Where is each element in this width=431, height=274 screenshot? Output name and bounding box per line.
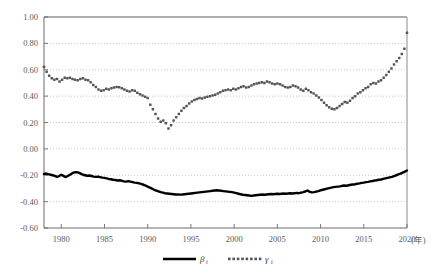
- data-point-gamma: [53, 78, 56, 81]
- data-point-gamma: [388, 70, 391, 73]
- data-point-gamma: [92, 84, 95, 87]
- data-point-gamma: [58, 80, 61, 83]
- data-point-gamma: [97, 88, 100, 91]
- data-point-gamma: [294, 85, 297, 88]
- data-point-gamma: [307, 89, 310, 92]
- data-point-gamma: [255, 82, 257, 85]
- data-point-gamma: [198, 97, 201, 100]
- data-point-gamma: [157, 117, 160, 120]
- data-point-gamma: [74, 78, 77, 81]
- data-point-gamma: [268, 81, 271, 84]
- data-point-gamma: [66, 77, 69, 80]
- x-tick-label: 2010: [312, 234, 329, 244]
- data-point-gamma: [43, 66, 46, 69]
- data-point-gamma: [284, 86, 287, 89]
- data-point-gamma: [76, 79, 79, 82]
- data-point-gamma: [63, 76, 66, 79]
- data-point-gamma: [204, 96, 207, 99]
- legend-dot: [250, 258, 253, 261]
- data-point-gamma: [406, 32, 409, 35]
- data-point-gamma: [146, 97, 149, 100]
- data-point-gamma: [380, 79, 383, 82]
- chart-legend: β t γ t: [163, 254, 273, 265]
- y-tick-label: -0.20: [20, 170, 38, 180]
- data-point-gamma: [250, 84, 253, 87]
- data-point-gamma: [258, 82, 261, 85]
- data-point-gamma: [48, 74, 51, 77]
- data-point-gamma: [134, 90, 137, 93]
- data-point-gamma: [136, 92, 139, 95]
- data-point-gamma: [253, 83, 256, 86]
- data-point-gamma: [302, 90, 305, 93]
- data-point-gamma: [393, 63, 396, 65]
- data-point-gamma: [271, 82, 274, 85]
- data-point-gamma: [344, 101, 347, 104]
- data-point-gamma: [240, 86, 243, 89]
- data-point-gamma: [369, 83, 372, 86]
- data-point-gamma: [165, 122, 168, 125]
- data-point-gamma: [377, 80, 380, 83]
- legend-dot: [254, 258, 257, 261]
- legend-dot: [259, 258, 262, 261]
- y-tick-label: 0.80: [23, 38, 38, 48]
- data-point-gamma: [395, 60, 398, 63]
- data-point-gamma: [245, 86, 248, 89]
- data-point-gamma: [175, 116, 178, 119]
- data-point-gamma: [105, 88, 108, 91]
- data-point-gamma: [367, 86, 370, 89]
- data-point-gamma: [372, 82, 375, 85]
- data-point-gamma: [209, 95, 212, 98]
- data-point-gamma: [121, 87, 124, 90]
- data-point-gamma: [216, 92, 219, 95]
- y-tick-label: -0.60: [20, 223, 38, 233]
- data-point-gamma: [201, 97, 204, 100]
- data-point-gamma: [289, 86, 292, 89]
- data-point-gamma: [144, 96, 147, 99]
- data-point-gamma: [279, 83, 282, 86]
- data-point-gamma: [341, 103, 344, 106]
- data-point-gamma: [170, 124, 173, 127]
- data-point-gamma: [51, 77, 54, 80]
- data-point-gamma: [242, 85, 245, 88]
- data-point-gamma: [95, 86, 98, 89]
- data-point-gamma: [320, 99, 323, 102]
- legend-sub-gamma: t: [271, 259, 273, 265]
- legend-dot: [232, 258, 235, 261]
- y-tick-label: 0.20: [23, 118, 38, 128]
- data-point-gamma: [362, 89, 365, 92]
- data-point-gamma: [385, 74, 388, 77]
- data-point-gamma: [71, 78, 74, 81]
- data-point-gamma: [346, 101, 349, 104]
- data-point-gamma: [401, 53, 404, 56]
- x-tick-label: 1995: [182, 234, 199, 244]
- data-point-gamma: [152, 108, 155, 111]
- data-point-gamma: [248, 86, 251, 89]
- data-point-gamma: [297, 86, 300, 89]
- data-point-gamma: [154, 113, 157, 116]
- data-point-gamma: [211, 94, 214, 97]
- data-point-gamma: [274, 83, 277, 86]
- data-point-gamma: [349, 99, 352, 102]
- legend-marker-gamma: [228, 258, 261, 261]
- data-point-gamma: [149, 103, 152, 106]
- y-tick-label: 1.00: [23, 12, 38, 22]
- data-point-gamma: [227, 88, 230, 91]
- data-point-gamma: [102, 89, 105, 92]
- data-point-gamma: [141, 94, 144, 97]
- data-point-gamma: [305, 88, 308, 91]
- data-point-gamma: [196, 98, 199, 101]
- legend-dot: [241, 258, 244, 261]
- data-point-gamma: [159, 121, 162, 124]
- x-tick-label: 2005: [269, 234, 286, 244]
- data-point-gamma: [312, 92, 315, 95]
- data-point-gamma: [333, 108, 336, 111]
- data-point-gamma: [113, 86, 116, 89]
- y-tick-label: 0.40: [23, 91, 38, 101]
- legend-dot: [228, 258, 231, 261]
- data-point-gamma: [110, 87, 113, 90]
- y-tick-label: 0.60: [23, 65, 38, 75]
- data-point-gamma: [128, 90, 131, 93]
- data-point-gamma: [100, 90, 103, 93]
- x-tick-label: 1990: [139, 234, 156, 244]
- data-point-gamma: [84, 78, 87, 81]
